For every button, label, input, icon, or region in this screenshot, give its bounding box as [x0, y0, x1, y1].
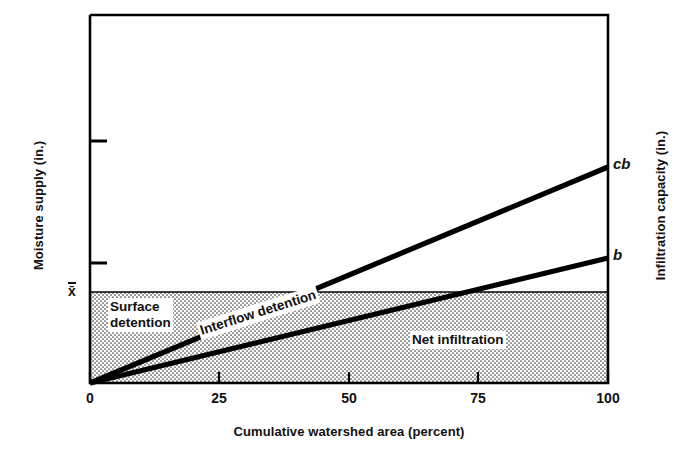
x-tick-label-75: 75 — [470, 390, 486, 406]
region-label-surface-detention: Surface detention — [108, 298, 173, 332]
x-tick-label-25: 25 — [211, 390, 227, 406]
y-tick-label-x-bar: x̄ — [68, 282, 76, 299]
y-tick-label-x-bar-text: x̄ — [68, 282, 76, 298]
y-axis-title-right: Infiltration capacity (in.) — [653, 106, 668, 306]
curve-label-b: b — [613, 246, 622, 263]
region-label-surface-detention-line2: detention — [110, 315, 171, 331]
chart-figure: Moisture supply (in.) Infiltration capac… — [0, 0, 694, 468]
x-tick-label-50: 50 — [341, 390, 357, 406]
region-label-net-infiltration: Net infiltration — [410, 331, 506, 349]
region-label-surface-detention-line1: Surface — [110, 299, 171, 315]
curve-label-cb: cb — [613, 155, 631, 172]
x-axis-title: Cumulative watershed area (percent) — [90, 424, 608, 439]
y-axis-title-left: Moisture supply (in.) — [31, 106, 46, 306]
x-tick-label-100: 100 — [596, 390, 619, 406]
x-tick-label-0: 0 — [86, 390, 94, 406]
